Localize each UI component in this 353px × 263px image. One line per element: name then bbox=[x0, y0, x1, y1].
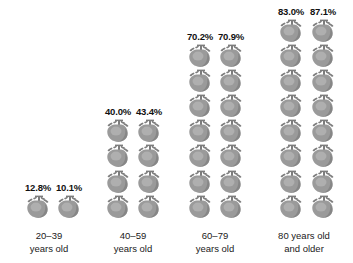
group-label: 20–39years old bbox=[6, 230, 92, 255]
heart-icon bbox=[310, 43, 336, 68]
group-columns: 70.2%70.9% bbox=[172, 0, 258, 219]
heart-icon bbox=[136, 118, 162, 143]
group-label-line1: 40–59 bbox=[90, 230, 176, 243]
group-label-line2: years old bbox=[90, 243, 176, 256]
heart-icon bbox=[278, 18, 304, 43]
heart-icon bbox=[278, 169, 304, 194]
heart-icon bbox=[187, 169, 213, 194]
group-columns: 83.0%87.1% bbox=[258, 0, 350, 219]
heart-icon bbox=[278, 118, 304, 143]
group-columns: 12.8%10.1% bbox=[6, 0, 92, 219]
pictogram-column: 70.2% bbox=[183, 43, 217, 219]
heart-icon bbox=[218, 68, 244, 93]
heart-icon bbox=[56, 194, 82, 219]
heart-icon bbox=[218, 93, 244, 118]
heart-icon bbox=[310, 68, 336, 93]
heart-icon bbox=[278, 43, 304, 68]
heart-icon bbox=[218, 43, 244, 68]
heart-icon bbox=[136, 143, 162, 168]
pictogram-column: 10.1% bbox=[52, 194, 86, 219]
heart-icon bbox=[187, 93, 213, 118]
column-value-label: 70.9% bbox=[218, 31, 244, 42]
group-label-line1: 80 years old bbox=[258, 230, 350, 243]
group-columns: 40.0%43.4% bbox=[90, 0, 176, 219]
column-value-label: 10.1% bbox=[56, 182, 82, 193]
heart-icon bbox=[310, 18, 336, 43]
pictogram-column: 87.1% bbox=[306, 18, 340, 220]
heart-icon bbox=[310, 93, 336, 118]
heart-icon bbox=[105, 143, 131, 168]
heart-icon bbox=[105, 118, 131, 143]
column-value-label: 40.0% bbox=[105, 106, 131, 117]
chart-group: 83.0%87.1%80 years oldand older bbox=[258, 0, 350, 263]
heart-icon bbox=[310, 143, 336, 168]
group-label-line2: years old bbox=[6, 243, 92, 256]
heart-icon bbox=[187, 143, 213, 168]
column-value-label: 43.4% bbox=[136, 106, 162, 117]
pictogram-column: 70.9% bbox=[214, 43, 248, 219]
group-label-line1: 20–39 bbox=[6, 230, 92, 243]
group-label-line1: 60–79 bbox=[172, 230, 258, 243]
heart-icon bbox=[187, 43, 213, 68]
group-label: 60–79years old bbox=[172, 230, 258, 255]
heart-icon bbox=[187, 194, 213, 219]
heart-icon bbox=[278, 143, 304, 168]
heart-icon bbox=[105, 169, 131, 194]
heart-icon bbox=[136, 169, 162, 194]
chart-group: 12.8%10.1%20–39years old bbox=[6, 0, 92, 263]
pictogram-column: 12.8% bbox=[21, 194, 55, 219]
heart-icon bbox=[218, 194, 244, 219]
column-value-label: 12.8% bbox=[25, 182, 51, 193]
pictogram-chart: 12.8%10.1%20–39years old40.0%43.4%40–59y… bbox=[0, 0, 353, 263]
heart-icon bbox=[310, 118, 336, 143]
heart-icon bbox=[187, 68, 213, 93]
chart-group: 40.0%43.4%40–59years old bbox=[90, 0, 176, 263]
column-value-label: 87.1% bbox=[310, 6, 336, 17]
heart-icon bbox=[278, 68, 304, 93]
heart-icon bbox=[187, 118, 213, 143]
heart-icon bbox=[278, 93, 304, 118]
heart-icon bbox=[218, 143, 244, 168]
heart-icon bbox=[25, 194, 51, 219]
heart-icon bbox=[105, 194, 131, 219]
heart-icon bbox=[310, 169, 336, 194]
heart-icon bbox=[218, 118, 244, 143]
heart-icon bbox=[278, 194, 304, 219]
group-label-line2: years old bbox=[172, 243, 258, 256]
group-label-line2: and older bbox=[258, 243, 350, 256]
column-value-label: 70.2% bbox=[187, 31, 213, 42]
chart-group: 70.2%70.9%60–79years old bbox=[172, 0, 258, 263]
pictogram-column: 40.0% bbox=[101, 118, 135, 219]
pictogram-column: 43.4% bbox=[132, 118, 166, 219]
column-value-label: 83.0% bbox=[278, 6, 304, 17]
heart-icon bbox=[310, 194, 336, 219]
group-label: 80 years oldand older bbox=[258, 230, 350, 255]
group-label: 40–59years old bbox=[90, 230, 176, 255]
pictogram-column: 83.0% bbox=[274, 18, 308, 220]
heart-icon bbox=[136, 194, 162, 219]
heart-icon bbox=[218, 169, 244, 194]
chart-groups: 12.8%10.1%20–39years old40.0%43.4%40–59y… bbox=[0, 0, 353, 263]
